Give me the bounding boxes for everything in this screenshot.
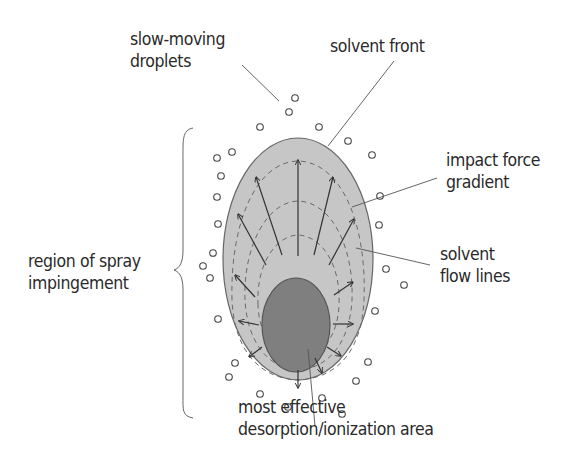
desorption-area [262, 278, 330, 372]
label-impact-force-gradient: impact force gradient [446, 149, 540, 193]
label-line: droplets [130, 50, 225, 72]
label-line: impingement [28, 272, 141, 294]
label-line: region of spray [28, 250, 141, 272]
label-line: solvent [440, 243, 510, 265]
label-solvent-flow-lines: solvent flow lines [440, 243, 510, 287]
label-region-of-spray: region of spray impingement [28, 250, 141, 294]
label-line: flow lines [440, 265, 510, 287]
label-line: desorption/ionization area [238, 418, 434, 440]
label-line: gradient [446, 171, 540, 193]
label-slow-moving-droplets: slow-moving droplets [130, 28, 225, 72]
label-line: solvent front [330, 35, 425, 57]
region-brace [174, 128, 193, 418]
spray-impingement-diagram [0, 0, 584, 456]
label-line: slow-moving [130, 28, 225, 50]
label-line: impact force [446, 149, 540, 171]
label-line: most effective [238, 396, 434, 418]
label-most-effective-area: most effective desorption/ionization are… [238, 396, 434, 440]
label-solvent-front: solvent front [330, 35, 425, 57]
